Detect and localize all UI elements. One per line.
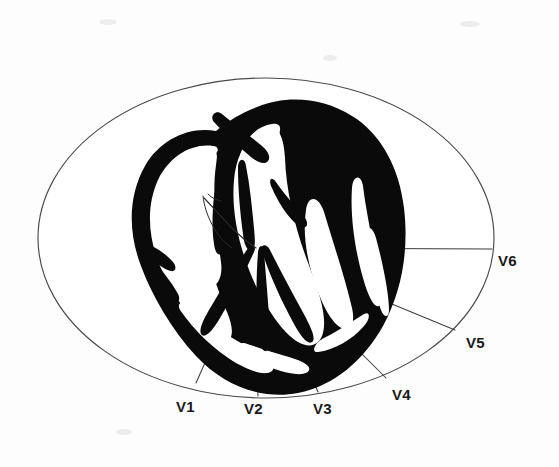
heart-cross-section-diagram: V1 V2 V3 V4 V5 V6 (0, 0, 559, 467)
figure-root: V1 V2 V3 V4 V5 V6 (0, 0, 559, 467)
lead-label-v3: V3 (313, 400, 332, 417)
lead-label-v4: V4 (392, 386, 411, 403)
lead-label-v1: V1 (176, 398, 195, 415)
lead-label-v5: V5 (466, 334, 485, 351)
lead-label-v6: V6 (498, 252, 517, 269)
lead-label-v2: V2 (244, 400, 263, 417)
